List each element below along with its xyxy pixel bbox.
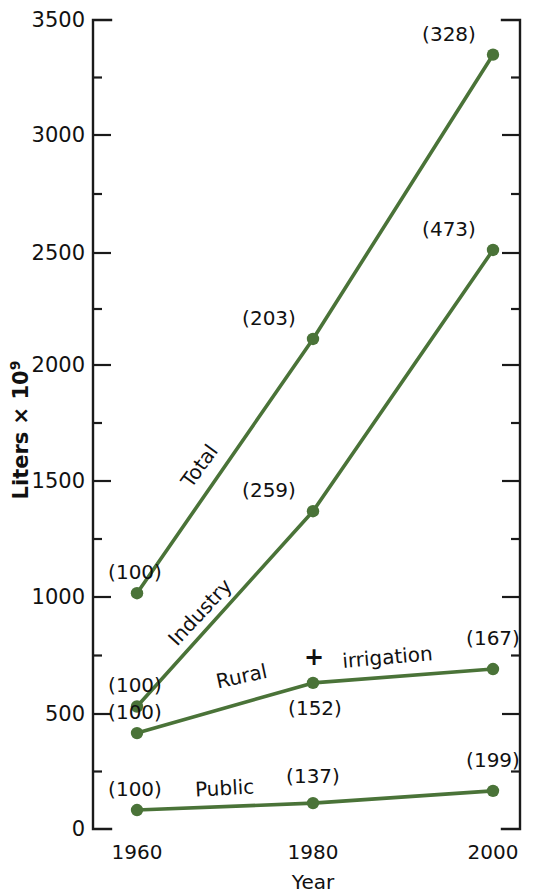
right-axis-spine — [502, 20, 520, 829]
y-tick-label: 2500 — [32, 241, 85, 265]
point-index-label: (100) — [108, 700, 162, 724]
plus-marker: + — [304, 643, 324, 671]
series-name-label: Total — [175, 440, 222, 493]
data-point — [307, 797, 319, 809]
data-point — [131, 804, 143, 816]
x-axis-title: Year — [291, 870, 335, 894]
data-point — [131, 587, 143, 599]
point-index-label: (152) — [288, 696, 342, 720]
point-index-label: (100) — [108, 777, 162, 801]
point-index-label: (100) — [108, 560, 162, 584]
y-axis-title-exponent: 9 — [7, 361, 23, 371]
point-index-label: (137) — [286, 764, 340, 788]
data-point — [131, 727, 143, 739]
data-point — [307, 505, 319, 517]
data-point — [487, 244, 499, 256]
series-name-label: Rural — [214, 659, 270, 693]
y-tick-label: 1000 — [32, 585, 85, 609]
data-point — [487, 48, 499, 60]
line-chart-svg: 3500300025002000150010005000196019802000… — [0, 0, 552, 895]
point-index-label: (259) — [242, 478, 296, 502]
x-tick-label: 2000 — [468, 840, 519, 864]
point-index-label: (167) — [466, 626, 520, 650]
series-name-label: Public — [194, 774, 254, 801]
data-point — [307, 333, 319, 345]
point-index-label: (203) — [242, 306, 296, 330]
y-tick-label: 0 — [72, 817, 85, 841]
point-index-label: (199) — [466, 748, 520, 772]
data-point — [487, 785, 499, 797]
y-tick-label: 500 — [45, 702, 85, 726]
y-tick-label: 3500 — [32, 8, 85, 32]
y-tick-label: 2000 — [32, 353, 85, 377]
y-axis-title-base: Liters × 10 — [9, 370, 33, 499]
chart-figure: 3500300025002000150010005000196019802000… — [0, 0, 552, 895]
point-index-label: (473) — [422, 217, 476, 241]
data-point — [307, 677, 319, 689]
point-index-label: (328) — [422, 22, 476, 46]
point-index-label: (100) — [108, 673, 162, 697]
x-tick-label: 1960 — [112, 840, 163, 864]
y-axis-title: Liters × 109 — [7, 361, 33, 500]
chart-labels: 3500300025002000150010005000196019802000… — [7, 8, 520, 894]
x-tick-label: 1980 — [288, 840, 339, 864]
y-tick-label: 3000 — [32, 123, 85, 147]
series-name-label-irrigation: irrigation — [341, 641, 433, 673]
y-tick-label: 1500 — [32, 469, 85, 493]
data-point — [487, 663, 499, 675]
